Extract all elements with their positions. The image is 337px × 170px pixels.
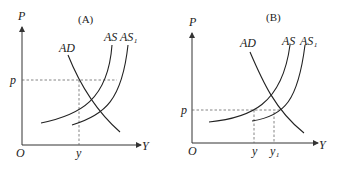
price-label: p (9, 73, 16, 87)
price-label: p (180, 103, 187, 117)
ad-curve (68, 55, 120, 132)
as1-label: AS₁ (119, 30, 138, 44)
origin-label: O (16, 146, 25, 160)
as-label: AS (103, 30, 117, 44)
panel-a: P (A) O Y p y AD AS AS₁ (9, 9, 150, 160)
ad-label: AD (239, 36, 256, 50)
output-label-y: y (251, 144, 258, 158)
as1-curve (72, 45, 128, 125)
output-label-y: y (75, 146, 82, 160)
panel-title: (A) (78, 13, 94, 26)
y-axis-label: P (188, 15, 197, 29)
diagram-canvas: P (A) O Y p y AD AS AS₁ P (B) O Y p y y₁… (0, 0, 337, 170)
output-label-y1: y₁ (269, 144, 280, 158)
as-label: AS (281, 34, 295, 48)
ad-label: AD (58, 41, 75, 55)
as1-label: AS₁ (299, 34, 318, 48)
y-axis-label: P (17, 9, 26, 23)
panel-b: P (B) O Y p y y₁ AD AS AS₁ (180, 11, 327, 158)
x-axis-label: Y (319, 138, 327, 152)
x-axis-label: Y (142, 139, 150, 153)
panel-title: (B) (266, 11, 281, 24)
origin-label: O (188, 144, 197, 158)
ad-curve (250, 52, 304, 133)
as-curve (209, 45, 290, 122)
